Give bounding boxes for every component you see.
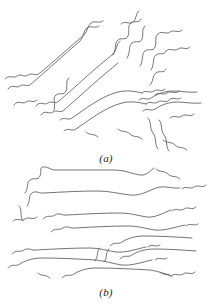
polymer-chain [8, 258, 152, 268]
polymer-chain [19, 206, 23, 221]
polymer-chain [51, 225, 185, 232]
panel-b-drawing [0, 166, 212, 286]
polymer-chain [150, 69, 166, 85]
polymer-chain [148, 118, 158, 149]
panel-b-chain-group [8, 167, 206, 278]
polymer-chain-figure: (a) (b) [0, 0, 212, 308]
polymer-chain [27, 187, 180, 206]
panel-a-drawing [0, 0, 212, 152]
polymer-chain [155, 258, 167, 260]
polymer-chain [158, 30, 182, 34]
polymer-chain [60, 91, 142, 120]
polymer-chain [41, 63, 118, 115]
polymer-chain [156, 169, 180, 179]
polymer-chain [148, 245, 160, 247]
polymer-chain [13, 217, 37, 221]
polymer-chain [14, 100, 37, 105]
polymer-chain [146, 98, 181, 104]
polymer-chain [5, 21, 103, 79]
polymer-chain [170, 114, 194, 118]
polymer-chain [38, 273, 50, 278]
polymer-chain [110, 236, 192, 246]
polymer-chain [8, 26, 99, 89]
polymer-chain [143, 102, 201, 111]
polymer-chain [64, 102, 146, 131]
polymer-chain [25, 167, 154, 193]
polymer-chain [12, 247, 146, 254]
polymer-chain [127, 26, 145, 58]
panel-a-random-chains [0, 0, 212, 152]
panel-a-label: (a) [0, 152, 212, 164]
polymer-chain [118, 129, 142, 139]
panel-a-chain-group [5, 11, 201, 151]
polymer-chain [186, 224, 198, 226]
panel-b-aligned-chains [0, 166, 212, 286]
polymer-chain [151, 51, 166, 70]
polymer-chain [166, 47, 190, 51]
panel-b-label: (b) [0, 286, 212, 298]
polymer-chain [62, 268, 170, 278]
polymer-chain [36, 41, 120, 106]
polymer-chain [182, 185, 206, 189]
polymer-chain [171, 272, 195, 276]
polymer-chain [43, 210, 171, 219]
polymer-chain [159, 120, 169, 151]
polymer-chain [95, 248, 100, 261]
polymer-chain [86, 132, 98, 137]
polymer-chain [172, 207, 196, 211]
polymer-chain [113, 19, 141, 55]
polymer-chain [140, 34, 158, 66]
